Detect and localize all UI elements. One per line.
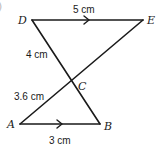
- vertex-label-e: E: [146, 14, 155, 27]
- vertex-label-c: C: [78, 80, 87, 93]
- segment-db: [32, 20, 100, 124]
- vertex-label-b: B: [103, 120, 112, 133]
- measurement-de: 5 cm: [73, 4, 95, 15]
- segment-ae: [20, 20, 143, 124]
- measurement-ab: 3 cm: [49, 135, 71, 146]
- vertex-label-a: A: [6, 118, 15, 131]
- vertex-label-d: D: [17, 14, 27, 27]
- partial-figure-label: ): [0, 0, 2, 13]
- measurement-ac: 3.6 cm: [14, 91, 44, 102]
- measurement-dc: 4 cm: [26, 49, 48, 60]
- geometry-diagram: ) D E C A B 5 cm 4 cm 3.6 cm 3 cm: [0, 0, 163, 153]
